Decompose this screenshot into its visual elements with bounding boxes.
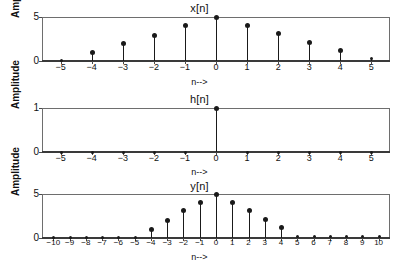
stem-line <box>216 17 217 61</box>
x-tick-label: −3 <box>112 62 134 72</box>
plot-panel-yn: y[n] Amplitude n--> 05−10−9−8−7−6−5−4−3−… <box>0 178 399 276</box>
x-axis-label-hn: n--> <box>0 167 399 177</box>
plot-panel-xn: x[n] Amplitude n--> 05−5−4−3−2−1012345 <box>0 0 399 92</box>
stem-marker <box>276 31 281 36</box>
stem-line <box>183 210 184 238</box>
stem-marker <box>60 151 63 154</box>
x-tick-label: −1 <box>174 153 196 163</box>
x-tick-label: 5 <box>360 62 382 72</box>
y-axis-label-yn: Amplitude <box>10 147 21 196</box>
x-tick-label: 2 <box>267 153 289 163</box>
x-tick-label: −5 <box>50 153 72 163</box>
y-tick-mark <box>39 194 42 195</box>
stem-line <box>123 43 124 61</box>
stem-marker <box>91 151 94 154</box>
x-tick-label: −3 <box>112 153 134 163</box>
y-tick-label: 0 <box>23 234 39 242</box>
x-tick-label: −2 <box>143 62 165 72</box>
stem-marker <box>183 23 188 28</box>
stem-marker <box>184 151 187 154</box>
stem-marker <box>277 151 280 154</box>
convolution-figure: x[n] Amplitude n--> 05−5−4−3−2−1012345 h… <box>0 0 399 276</box>
stem-line <box>167 220 168 238</box>
y-tick-label: 0 <box>21 148 39 156</box>
stem-marker <box>338 48 343 53</box>
y-tick-mark <box>39 17 42 18</box>
stem-line <box>249 210 250 238</box>
x-tick-label: −5 <box>50 62 72 72</box>
x-tick-label: 3 <box>298 62 320 72</box>
stem-marker <box>230 200 235 205</box>
x-tick-label: 10 <box>368 238 390 248</box>
x-tick-label: 5 <box>360 153 382 163</box>
stem-marker <box>307 40 312 45</box>
x-tick-label: −4 <box>81 62 103 72</box>
stem-line <box>216 108 217 152</box>
x-tick-label: −1 <box>174 62 196 72</box>
stem-line <box>247 25 248 61</box>
y-tick-label: 5 <box>23 190 39 198</box>
stem-marker <box>214 106 219 111</box>
y-axis-label-hn: Amplitude <box>10 60 21 109</box>
stem-line <box>154 35 155 61</box>
y-tick-mark <box>39 152 42 153</box>
x-tick-label: 1 <box>236 62 258 72</box>
y-tick-mark <box>39 61 42 62</box>
plot-panel-hn: h[n] Amplitude n--> 01−5−4−3−2−1012345 <box>0 90 399 182</box>
stem-line <box>278 33 279 61</box>
stem-marker <box>153 151 156 154</box>
x-tick-label: 2 <box>267 62 289 72</box>
y-tick-label: 5 <box>21 13 39 21</box>
stem-line <box>216 194 217 238</box>
stem-marker <box>246 151 249 154</box>
plot-title-yn: y[n] <box>0 180 399 192</box>
stem-marker <box>214 192 219 197</box>
y-tick-label: 1 <box>21 104 39 112</box>
stem-marker <box>181 208 186 213</box>
stem-marker <box>152 33 157 38</box>
x-tick-label: −2 <box>143 153 165 163</box>
stem-marker <box>122 151 125 154</box>
y-axis-label-xn: Amplitude <box>10 0 21 18</box>
plot-title-xn: x[n] <box>0 2 399 14</box>
x-tick-label: −4 <box>81 153 103 163</box>
y-tick-label: 0 <box>21 57 39 65</box>
x-axis-label-xn: n--> <box>0 77 399 87</box>
y-tick-mark <box>39 108 42 109</box>
stem-marker <box>339 151 342 154</box>
stem-marker <box>308 151 311 154</box>
stem-marker <box>247 208 252 213</box>
stem-line <box>232 202 233 238</box>
stem-line <box>200 202 201 238</box>
x-tick-label: 3 <box>298 153 320 163</box>
x-tick-label: 1 <box>236 153 258 163</box>
x-axis-label-yn: n--> <box>0 252 399 262</box>
x-tick-label: 4 <box>329 62 351 72</box>
stem-marker <box>370 151 373 154</box>
plot-title-hn: h[n] <box>0 93 399 105</box>
stem-marker <box>214 15 219 20</box>
x-tick-label: 4 <box>329 153 351 163</box>
stem-marker <box>263 217 268 222</box>
x-tick-label: 0 <box>205 153 227 163</box>
x-tick-label: 0 <box>205 62 227 72</box>
stem-marker <box>245 23 250 28</box>
stem-marker <box>198 200 203 205</box>
stem-line <box>185 25 186 61</box>
